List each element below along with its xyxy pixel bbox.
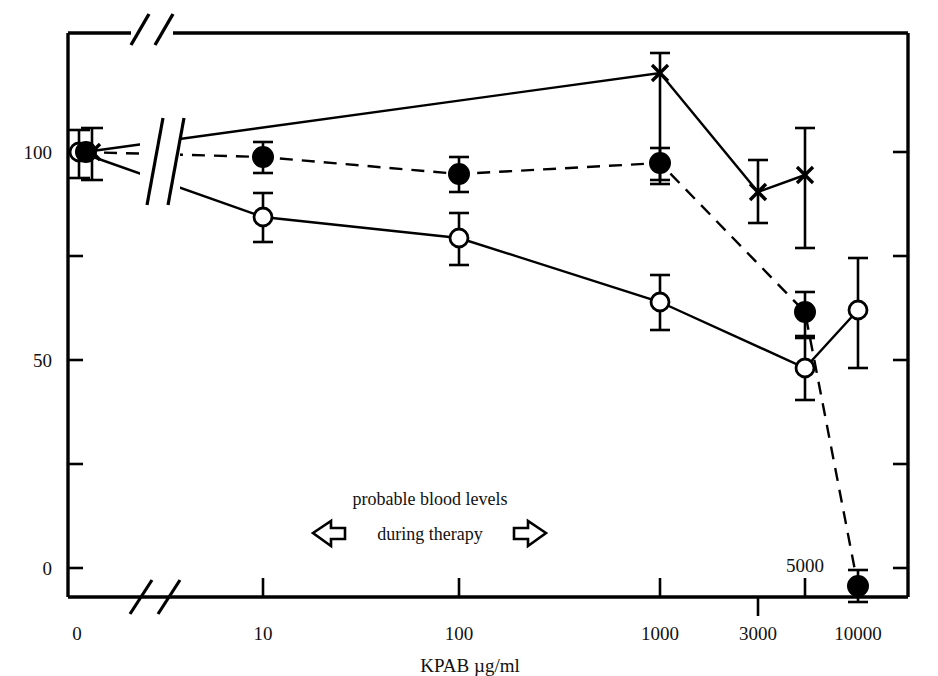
chart-svg: 100 50 0 0 10 100 1000 3000 5000 10000 K…: [0, 0, 938, 676]
marker-open-circle-100: [450, 229, 468, 247]
marker-open-circle-10000: [849, 301, 867, 319]
x-tick-label-5000: 5000: [786, 555, 824, 576]
x-tick-label-1000: 1000: [641, 623, 679, 644]
chart-figure: 100 50 0 0 10 100 1000 3000 5000 10000 K…: [0, 0, 938, 676]
annotation-line-1: probable blood levels: [353, 489, 508, 509]
x-axis-title: KPAB µg/ml: [420, 655, 519, 676]
annotation-line-2: during therapy: [377, 524, 482, 544]
marker-open-circle-1000: [651, 293, 669, 311]
marker-filled-circle-5000: [795, 302, 815, 322]
marker-open-circle-5000: [796, 359, 814, 377]
y-tick-label-100: 100: [24, 142, 53, 163]
marker-filled-circle-10000: [848, 576, 868, 596]
marker-filled-circle-10: [253, 147, 273, 167]
x-tick-label-10000: 10000: [834, 623, 882, 644]
marker-filled-circle-1000: [650, 153, 670, 173]
marker-filled-circle-100: [449, 164, 469, 184]
series-break-icon: [140, 112, 184, 205]
x-tick-label-3000: 3000: [739, 623, 777, 644]
x-tick-label-10: 10: [254, 623, 273, 644]
x-tick-label-0: 0: [72, 623, 82, 644]
y-tick-label-0: 0: [43, 558, 53, 579]
marker-open-circle-10: [254, 208, 272, 226]
x-tick-label-100: 100: [445, 623, 474, 644]
y-tick-label-50: 50: [33, 350, 52, 371]
